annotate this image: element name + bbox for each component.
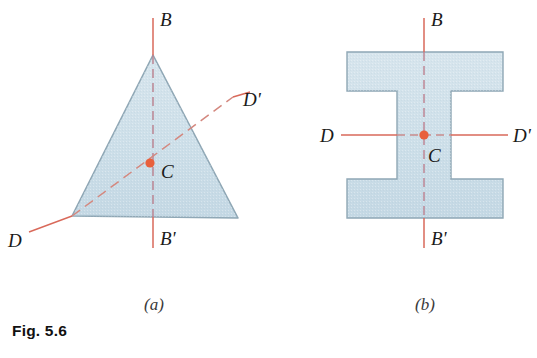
centroid-dot-a [145, 158, 154, 167]
label-d-left-b: D [319, 125, 334, 146]
figure-5-6: B B' D D' C (a) B B' D D' [0, 0, 537, 358]
label-b-bottom-a: B' [160, 228, 177, 249]
sublabel-a: (a) [144, 295, 164, 314]
label-c-a: C [161, 161, 174, 182]
label-c-b: C [428, 145, 441, 166]
panel-a: B B' D D' C (a) [7, 9, 262, 314]
panel-b: B B' D D' C (b) [319, 9, 532, 314]
label-b-top-a: B [160, 9, 172, 30]
centroid-dot-b [419, 130, 428, 139]
axis-dd-left-segment [29, 216, 72, 232]
sublabel-b: (b) [415, 295, 435, 314]
figure-canvas: B B' D D' C (a) B B' D D' [0, 0, 537, 358]
label-b-top-b: B [431, 9, 443, 30]
label-d-right-b: D' [512, 125, 532, 146]
label-b-bottom-b: B' [431, 228, 448, 249]
figure-caption: Fig. 5.6 [12, 322, 67, 340]
label-d-right-a: D' [242, 89, 262, 110]
triangle-texture [72, 55, 238, 218]
label-d-left-a: D [7, 230, 22, 251]
